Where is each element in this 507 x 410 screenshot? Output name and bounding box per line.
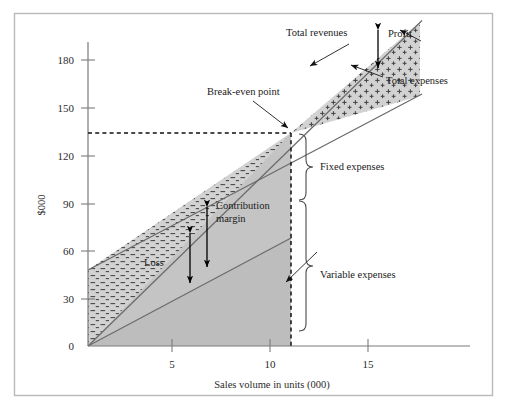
x-axis-title: Sales volume in units (000) xyxy=(214,379,330,391)
label-loss: Loss xyxy=(144,257,164,268)
leader-total-revenues xyxy=(310,44,349,66)
label-break-even-point: Break-even point xyxy=(207,86,280,97)
y-tick-label-120: 120 xyxy=(58,150,75,162)
y-tick-label-0: 0 xyxy=(69,340,75,352)
label-variable-expenses: Variable expenses xyxy=(320,269,396,280)
y-axis-tick-labels: 180 150 120 90 60 30 0 xyxy=(58,54,75,352)
cost-volume-profit-chart: 180 150 120 90 60 30 0 5 10 15 Sales vol… xyxy=(0,0,507,410)
label-contribution-margin-line2: margin xyxy=(216,213,246,224)
x-tick-label-10: 10 xyxy=(265,358,277,370)
label-fixed-expenses: Fixed expenses xyxy=(320,161,384,172)
x-tick-label-15: 15 xyxy=(363,358,375,370)
x-axis-tick-labels: 5 10 15 xyxy=(169,358,374,370)
label-contribution-margin-line1: Contribution xyxy=(216,200,270,211)
leader-break-even-point xyxy=(253,101,288,128)
y-axis-title: $000 xyxy=(36,195,47,216)
y-tick-label-30: 30 xyxy=(63,293,75,305)
y-tick-label-150: 150 xyxy=(58,102,75,114)
y-tick-label-90: 90 xyxy=(63,198,75,210)
y-tick-label-60: 60 xyxy=(63,245,75,257)
x-tick-label-5: 5 xyxy=(169,358,175,370)
brace-variable-expenses xyxy=(299,201,313,331)
label-total-expenses: Total expenses xyxy=(386,75,448,86)
brace-fixed-expenses xyxy=(299,134,313,200)
cvp-chart-figure: 180 150 120 90 60 30 0 5 10 15 Sales vol… xyxy=(0,0,507,410)
label-total-revenues: Total revenues xyxy=(286,27,347,38)
label-profit: Profit xyxy=(388,28,412,39)
y-tick-label-180: 180 xyxy=(58,54,75,66)
